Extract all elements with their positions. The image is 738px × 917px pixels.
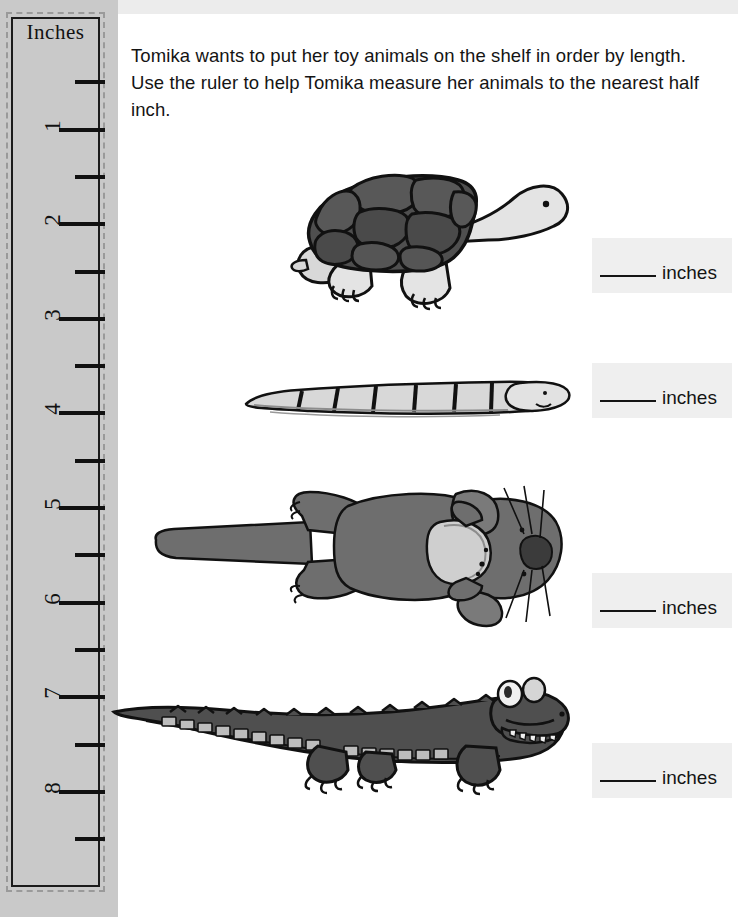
ruler-tick-half [75, 80, 105, 84]
ruler-label-3: 3 [40, 302, 66, 328]
ruler-tick-half [75, 837, 105, 841]
ruler-tick-half [75, 648, 105, 652]
ruler-tick-half [75, 270, 105, 274]
ruler-tick-half [75, 175, 105, 179]
ruler-label-4: 4 [40, 396, 66, 422]
answer-blank-line[interactable] [600, 387, 656, 402]
answer-inner: inches [600, 767, 717, 789]
answer-inner: inches [600, 387, 717, 409]
answer-unit-label: inches [662, 767, 717, 788]
animal-snake [240, 378, 574, 418]
answer-box[interactable]: inches [592, 743, 732, 798]
answer-box[interactable]: inches [592, 238, 732, 293]
ruler-label-6: 6 [40, 586, 66, 612]
answer-unit-label: inches [662, 262, 717, 283]
answer-blank-line[interactable] [600, 262, 656, 277]
ruler-label-2: 2 [40, 207, 66, 233]
ruler-tick-half [75, 553, 105, 557]
ruler-tick-half [75, 743, 105, 747]
animal-turtle [288, 168, 578, 313]
animal-otter [152, 478, 570, 628]
ruler-tick-half [75, 459, 105, 463]
ruler-label-1: 1 [40, 113, 66, 139]
ruler-tick-half [75, 364, 105, 368]
answer-inner: inches [600, 262, 717, 284]
ruler-label-5: 5 [40, 491, 66, 517]
ruler: Inches 12345678 [0, 0, 118, 917]
answer-box[interactable]: inches [592, 573, 732, 628]
answer-blank-line[interactable] [600, 597, 656, 612]
answer-unit-label: inches [662, 597, 717, 618]
ruler-title: Inches [11, 20, 100, 45]
answer-blank-line[interactable] [600, 767, 656, 782]
instructions-text: Tomika wants to put her toy animals on t… [131, 42, 716, 123]
ruler-label-7: 7 [40, 680, 66, 706]
ruler-label-8: 8 [40, 775, 66, 801]
answer-inner: inches [600, 597, 717, 619]
ruler-body [11, 17, 100, 887]
answer-unit-label: inches [662, 387, 717, 408]
animal-alligator [110, 676, 572, 796]
answer-box[interactable]: inches [592, 363, 732, 418]
